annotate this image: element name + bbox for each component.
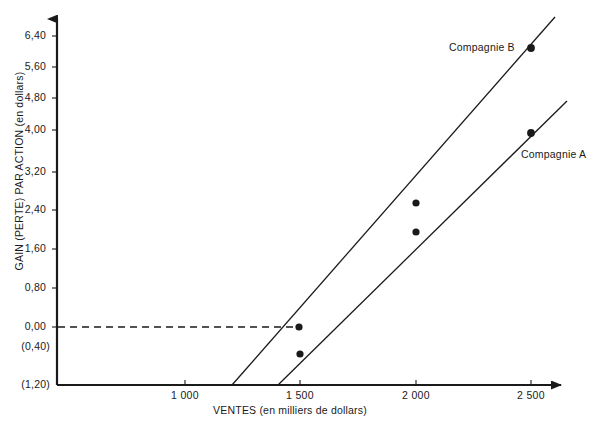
x-tick-label: 1 500 (270, 390, 330, 401)
data-point (296, 350, 303, 357)
series-line-compagnie-a (278, 101, 567, 385)
y-tick-label-negative: (1,20) (0, 379, 50, 390)
series-label-compagnie-b: Compagnie B (449, 41, 515, 53)
data-point (412, 199, 419, 206)
data-point (527, 129, 535, 137)
series-label-compagnie-a: Compagnie A (521, 148, 586, 160)
x-axis-title: VENTES (en milliers de dollars) (160, 404, 420, 416)
data-point (295, 323, 302, 330)
series-line-compagnie-b (232, 17, 555, 385)
data-point (527, 44, 535, 52)
series-markers-compagnie-a (295, 129, 534, 331)
x-tick-label: 2 000 (386, 390, 446, 401)
y-tick-label: 0,00 (0, 321, 46, 332)
chart-figure: 6,40 5,60 4,80 4,00 3,20 2,40 1,60 0,80 … (0, 0, 600, 421)
x-tick-label: 1 000 (155, 390, 215, 401)
y-tick-label: 6,40 (0, 30, 46, 41)
data-point (412, 228, 419, 235)
series-markers-compagnie-b (296, 44, 534, 358)
y-tick-label-negative: (0,40) (0, 341, 50, 352)
y-axis-title: GAIN (PERTE) PAR ACTION (en dollars) (13, 71, 25, 271)
chart-plot-area (0, 0, 600, 421)
x-tick-label: 2 500 (501, 390, 561, 401)
y-tick-label: 0,80 (0, 282, 46, 293)
